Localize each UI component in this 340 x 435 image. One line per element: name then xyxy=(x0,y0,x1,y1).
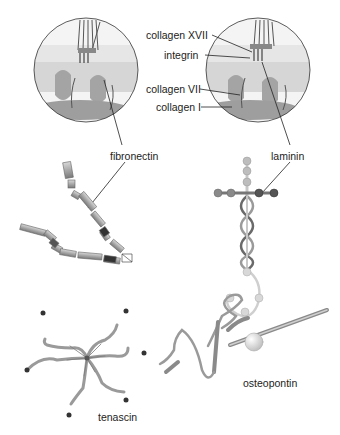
osteopontin-molecule xyxy=(160,295,327,378)
fibronectin-molecule xyxy=(20,161,132,264)
label-fibronectin: fibronectin xyxy=(110,151,158,162)
basement-membrane-inset-right xyxy=(200,18,320,122)
ecm-proteins-diagram xyxy=(0,0,340,435)
laminin-molecule xyxy=(214,157,278,316)
label-collagen-i: collagen I xyxy=(156,102,201,113)
basement-membrane-inset-left xyxy=(30,18,150,122)
tenascin-molecule xyxy=(25,309,147,418)
label-collagen-vii: collagen VII xyxy=(146,84,201,95)
label-collagen-xvii: collagen XVII xyxy=(146,30,208,41)
label-laminin: laminin xyxy=(271,151,304,162)
label-integrin: integrin xyxy=(164,50,198,61)
label-osteopontin: osteopontin xyxy=(243,378,297,389)
label-tenascin: tenascin xyxy=(98,412,137,423)
